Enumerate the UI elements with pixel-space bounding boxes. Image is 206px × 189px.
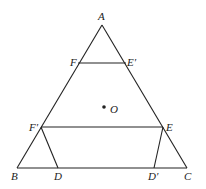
label-o: O (110, 103, 118, 115)
side-ab (17, 25, 102, 168)
label-a: A (97, 10, 105, 22)
label-e: E (165, 121, 173, 133)
label-d: D (53, 170, 62, 182)
label-d-prime: D′ (147, 170, 159, 182)
label-f-prime: F′ (28, 121, 39, 133)
label-e-prime: E′ (126, 56, 137, 68)
label-f: F (69, 56, 77, 68)
label-c: C (184, 170, 192, 182)
point-o-dot (102, 105, 106, 109)
label-b: B (11, 170, 18, 182)
geometry-diagram: A F E′ O F′ E B D D′ C (0, 0, 206, 189)
segment-f-prime-d (41, 127, 58, 168)
side-ac (102, 25, 187, 168)
segment-e-d-prime (154, 127, 163, 168)
